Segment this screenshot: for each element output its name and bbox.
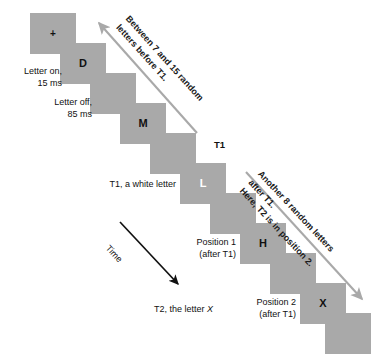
caption-t2-glyph: X	[207, 304, 213, 314]
caption-letter-on: Letter on, 15 ms	[0, 65, 62, 89]
annotation-time: Time	[104, 243, 125, 264]
caption-t1-white-letter: T1, a white letter	[78, 178, 176, 190]
letter-glyph-x: X	[319, 298, 326, 309]
letter-glyph-h: H	[259, 238, 267, 249]
caption-position-1: Position 1 (after T1)	[160, 236, 236, 260]
letter-glyph-d: D	[79, 58, 87, 69]
stimulus-frame-blank-5	[325, 313, 371, 354]
caption-position-2: Position 2 (after T1)	[220, 296, 296, 320]
figure-canvas: + D M L H X Letter on, 15 ms Letter off,…	[0, 0, 384, 362]
fixation-cross-icon: +	[50, 29, 56, 39]
caption-t2-prefix: T2, the letter	[154, 304, 207, 314]
caption-letter-off: Letter off, 85 ms	[20, 96, 92, 120]
label-t1-marker: T1	[214, 139, 225, 152]
letter-glyph-l-white: L	[200, 178, 207, 189]
letter-glyph-m: M	[138, 118, 147, 129]
caption-t2-letter-x: T2, the letter X	[128, 303, 213, 315]
